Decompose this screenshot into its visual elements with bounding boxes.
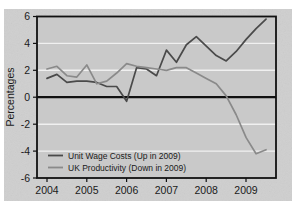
x-tick-label: 2007 (155, 184, 179, 196)
y-tick-label: 4 (24, 37, 30, 49)
x-tick-labels: 2004 2005 2006 2007 2008 2009 (35, 184, 258, 196)
x-tick-label: 2008 (195, 184, 219, 196)
chart-figure: 6 4 2 0 -2 -4 -6 2004 2005 2006 2007 200… (0, 0, 296, 206)
y-tick-label: -2 (21, 118, 30, 130)
x-tick-label: 2005 (75, 184, 99, 196)
y-tick-label: -6 (21, 172, 30, 184)
line-chart: 6 4 2 0 -2 -4 -6 2004 2005 2006 2007 200… (0, 0, 296, 206)
legend-label: Unit Wage Costs (Up in 2009) (68, 151, 181, 161)
y-axis-title: Percentages (4, 68, 16, 127)
y-tick-label: -4 (21, 145, 30, 157)
y-tick-label: 0 (24, 91, 30, 103)
x-tick-label: 2006 (115, 184, 139, 196)
y-tick-labels: 6 4 2 0 -2 -4 -6 (21, 10, 31, 184)
x-tick-label: 2009 (234, 184, 258, 196)
y-tick-label: 2 (24, 64, 30, 76)
legend-label: UK Productivity (Down in 2009) (68, 163, 186, 173)
y-tick-label: 6 (24, 10, 30, 22)
x-tick-label: 2004 (35, 184, 59, 196)
